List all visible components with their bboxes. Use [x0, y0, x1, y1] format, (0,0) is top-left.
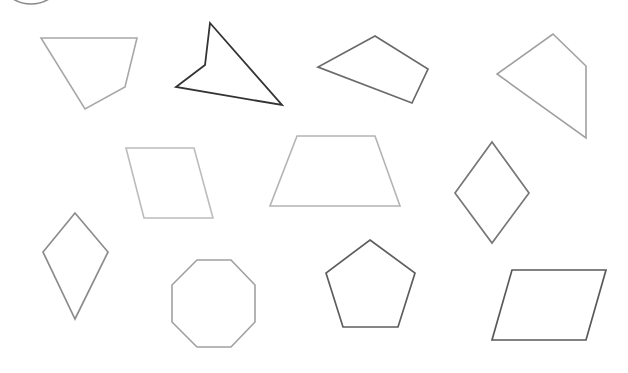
octagon [172, 260, 255, 347]
concave-quadrilateral [176, 23, 282, 105]
irregular-quadrilateral-3 [497, 34, 586, 138]
rhombus [455, 142, 529, 243]
irregular-quadrilateral-2 [318, 36, 428, 103]
shapes-canvas [0, 0, 628, 373]
parallelogram-2 [492, 270, 606, 340]
kite [43, 213, 108, 319]
pentagon [326, 240, 415, 327]
partial-circle-arc [0, 0, 65, 4]
trapezoid [270, 136, 400, 206]
irregular-quadrilateral-1 [41, 38, 137, 109]
parallelogram-1 [126, 148, 213, 218]
polygon-layer [41, 23, 606, 347]
